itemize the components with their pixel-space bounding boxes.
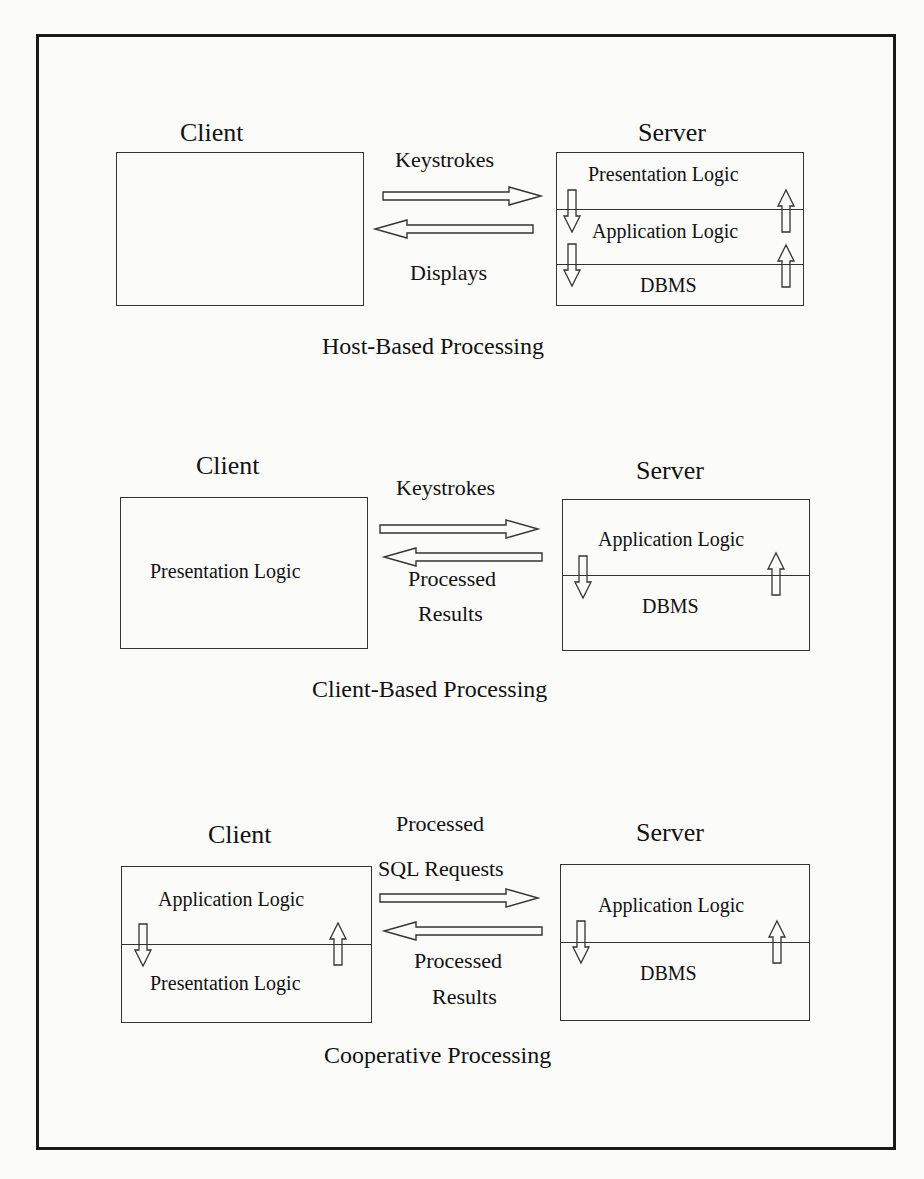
panel3-server-layer-dbms: DBMS: [640, 962, 697, 985]
panel2-server-divider: [562, 575, 810, 576]
panel3-client-layer-application: Application Logic: [158, 888, 304, 911]
panel1-server-divider-2: [556, 264, 804, 265]
panel3-client-title: Client: [208, 820, 272, 850]
panel3-server-divider: [560, 942, 810, 943]
panel2-results-label: Results: [418, 601, 483, 627]
panel3-server-layer-application: Application Logic: [598, 894, 744, 917]
panel2-caption: Client-Based Processing: [312, 676, 547, 703]
panel1-server-layer-application: Application Logic: [592, 220, 738, 243]
panel3-processed-requests-label-2: SQL Requests: [378, 856, 504, 882]
panel3-client-layer-presentation: Presentation Logic: [150, 972, 301, 995]
panel3-processed-requests-label-1: Processed: [396, 811, 484, 837]
panel2-server-title: Server: [636, 456, 704, 486]
panel1-displays-label: Displays: [410, 260, 487, 286]
panel3-client-divider: [121, 944, 372, 945]
panel1-server-divider-1: [556, 209, 804, 210]
panel3-server-title: Server: [636, 818, 704, 848]
panel1-client-box: [116, 152, 364, 306]
panel1-keystrokes-label: Keystrokes: [395, 147, 494, 173]
panel2-client-title: Client: [196, 451, 260, 481]
panel1-caption: Host-Based Processing: [322, 333, 544, 360]
panel3-processed-results-label-1: Processed: [414, 948, 502, 974]
panel1-server-layer-presentation: Presentation Logic: [588, 163, 739, 186]
page: Client Keystrokes Displays Server Presen…: [0, 0, 924, 1179]
panel3-processed-results-label-2: Results: [432, 984, 497, 1010]
panel2-server-layer-application: Application Logic: [598, 528, 744, 551]
panel2-keystrokes-label: Keystrokes: [396, 475, 495, 501]
panel2-processed-label: Processed: [408, 566, 496, 592]
panel2-server-layer-dbms: DBMS: [642, 595, 699, 618]
panel1-client-title: Client: [180, 118, 244, 148]
panel1-server-layer-dbms: DBMS: [640, 274, 697, 297]
panel2-client-layer-presentation: Presentation Logic: [150, 560, 301, 583]
panel1-server-title: Server: [638, 118, 706, 148]
panel3-caption: Cooperative Processing: [324, 1042, 551, 1069]
